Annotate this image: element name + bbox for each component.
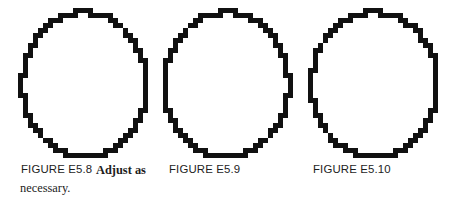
figure-e5-9-label: FIGURE E5.9	[169, 163, 240, 175]
figure-e5-8-caption-line2: necessary.	[20, 181, 70, 196]
figure-e5-8-label: FIGURE E5.8	[21, 163, 92, 175]
figure-e5-10-label: FIGURE E5.10	[313, 163, 391, 175]
figure-e5-8-caption: Adjust as	[96, 163, 146, 178]
caption-band: FIGURE E5.8 Adjust as necessary. FIGURE …	[0, 163, 457, 215]
figure-canvas: FIGURE E5.8 Adjust as necessary. FIGURE …	[0, 0, 457, 215]
